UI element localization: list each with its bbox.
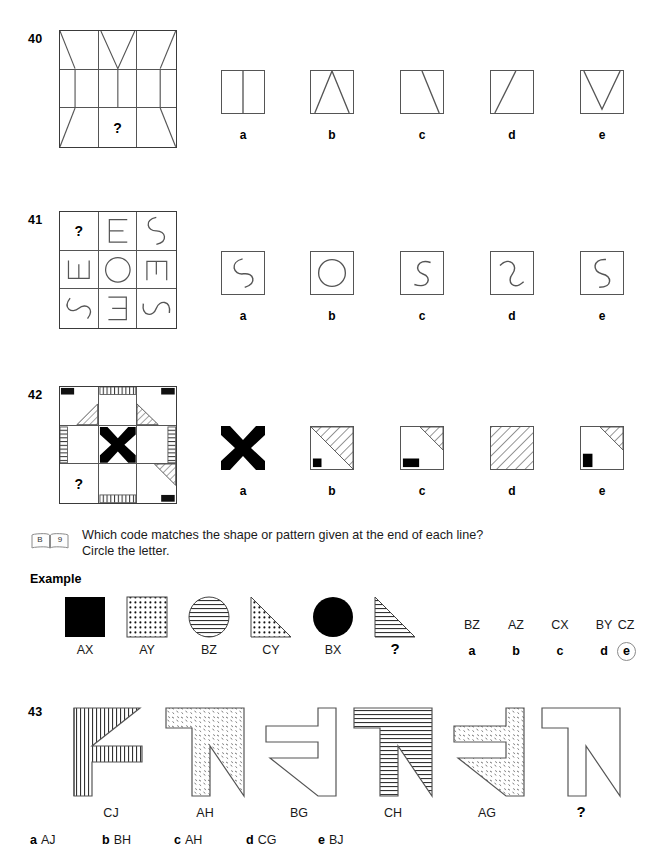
- option-d-label[interactable]: d: [490, 484, 534, 498]
- example-code-b: AZ: [499, 618, 533, 632]
- q43-option-c-code: AH: [185, 833, 202, 847]
- option-b-label[interactable]: b: [310, 309, 354, 323]
- option-b-shape[interactable]: [310, 426, 354, 470]
- q43-option-d[interactable]: dCG: [246, 833, 276, 847]
- example-letter-a[interactable]: a: [455, 644, 489, 658]
- option-d-shape[interactable]: [490, 251, 534, 295]
- matrix-cell: [60, 426, 99, 465]
- matrix-cell: [137, 31, 176, 70]
- option-e-shape[interactable]: [580, 70, 624, 114]
- book-icon-left-label: B: [37, 535, 42, 544]
- q43-option-e[interactable]: eBJ: [318, 833, 344, 847]
- question-mark: ?: [60, 476, 98, 492]
- example-shape-4: [248, 596, 294, 638]
- option-e-shape[interactable]: [580, 426, 624, 470]
- matrix-cell: [60, 289, 99, 328]
- q43-option-a-code: AJ: [41, 833, 56, 847]
- option-a-label[interactable]: a: [221, 128, 265, 142]
- option-c-shape[interactable]: [400, 251, 444, 295]
- question-number: 42: [28, 388, 42, 402]
- q43-shape-6: [538, 706, 624, 798]
- q43-option-e-letter: e: [318, 833, 325, 847]
- matrix-cell: [137, 464, 176, 503]
- question-number: 41: [28, 213, 42, 227]
- option-e-shape[interactable]: [580, 251, 624, 295]
- matrix-cell: [137, 212, 176, 251]
- matrix-cell: [99, 464, 138, 503]
- example-label-3: BZ: [179, 643, 239, 657]
- question-41-matrix: ?: [59, 211, 177, 329]
- option-c-shape[interactable]: [400, 70, 444, 114]
- option-d-shape[interactable]: [490, 70, 534, 114]
- option-c-label[interactable]: c: [400, 484, 444, 498]
- matrix-cell-black-x: [99, 426, 138, 465]
- matrix-cell-missing: ?: [99, 108, 138, 147]
- q43-option-a-letter: a: [30, 833, 37, 847]
- example-shape-6: [372, 596, 418, 638]
- example-code-e: CZ: [609, 618, 643, 632]
- option-c-label[interactable]: c: [400, 128, 444, 142]
- option-a-label[interactable]: a: [221, 484, 265, 498]
- q43-option-b[interactable]: bBH: [102, 833, 131, 847]
- option-c-shape[interactable]: [400, 426, 444, 470]
- option-b-shape[interactable]: [310, 70, 354, 114]
- q43-label-2: AH: [160, 806, 250, 820]
- open-book-icon: B 9: [30, 531, 70, 551]
- matrix-cell: [60, 251, 99, 290]
- option-a-shape[interactable]: [221, 251, 265, 295]
- option-d-label[interactable]: d: [490, 309, 534, 323]
- q43-label-5: AG: [442, 806, 532, 820]
- option-b-label[interactable]: b: [310, 484, 354, 498]
- matrix-cell: [137, 289, 176, 328]
- q43-option-a[interactable]: aAJ: [30, 833, 56, 847]
- example-code-c: CX: [543, 618, 577, 632]
- matrix-cell: [99, 31, 138, 70]
- matrix-cell: [60, 31, 99, 70]
- q43-option-d-code: CG: [258, 833, 277, 847]
- option-c-label[interactable]: c: [400, 309, 444, 323]
- matrix-cell: [137, 108, 176, 147]
- q43-question-mark: ?: [536, 803, 626, 820]
- option-e-label[interactable]: e: [580, 309, 624, 323]
- q43-option-b-code: BH: [114, 833, 131, 847]
- option-d-shape[interactable]: [490, 426, 534, 470]
- instruction-text: Which code matches the shape or pattern …: [82, 528, 483, 559]
- matrix-cell: [60, 108, 99, 147]
- matrix-cell: [60, 70, 99, 109]
- example-label-1: AX: [55, 643, 115, 657]
- example-letter-d[interactable]: d: [587, 644, 621, 658]
- q43-option-e-code: BJ: [329, 833, 344, 847]
- example-shape-2: [124, 596, 170, 638]
- worksheet-page: 40 ?: [0, 0, 654, 865]
- option-e-label[interactable]: e: [580, 128, 624, 142]
- option-b-shape[interactable]: [310, 251, 354, 295]
- matrix-cell: [99, 251, 138, 290]
- q43-option-b-letter: b: [102, 833, 110, 847]
- q43-shape-5: [444, 706, 530, 798]
- example-letter-e-circled[interactable]: e: [617, 642, 636, 661]
- option-e-label[interactable]: e: [580, 484, 624, 498]
- matrix-cell: [99, 70, 138, 109]
- option-b-label[interactable]: b: [310, 128, 354, 142]
- question-number: 43: [28, 705, 42, 719]
- question-40-matrix: ?: [59, 30, 177, 148]
- q43-shape-1: [68, 706, 154, 798]
- option-a-shape[interactable]: [221, 426, 265, 470]
- example-label-2: AY: [117, 643, 177, 657]
- matrix-cell: [99, 387, 138, 426]
- example-shape-5: [310, 596, 356, 638]
- example-shape-3: [186, 596, 232, 638]
- option-a-label[interactable]: a: [221, 309, 265, 323]
- option-a-shape[interactable]: [221, 70, 265, 114]
- matrix-cell: [137, 387, 176, 426]
- example-letter-c[interactable]: c: [543, 644, 577, 658]
- example-question-mark: ?: [365, 640, 425, 657]
- question-mark: ?: [99, 120, 137, 136]
- option-d-label[interactable]: d: [490, 128, 534, 142]
- matrix-cell: [137, 426, 176, 465]
- example-letter-b[interactable]: b: [499, 644, 533, 658]
- matrix-cell: [99, 289, 138, 328]
- example-header: Example: [30, 572, 81, 586]
- q43-option-c[interactable]: cAH: [174, 833, 202, 847]
- matrix-cell: [137, 70, 176, 109]
